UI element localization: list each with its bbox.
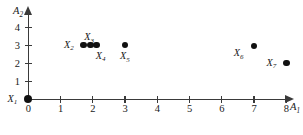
x-axis-tick — [92, 96, 93, 103]
y-axis-label: A2 — [13, 5, 23, 16]
x-axis-tick — [253, 96, 254, 103]
data-point-label-x7: X7 — [267, 57, 277, 68]
x-axis-tick-label: 3 — [117, 103, 133, 114]
x-axis-tick-label: 0 — [20, 103, 36, 114]
x-axis-tick-label: 2 — [85, 103, 101, 114]
y-axis-tick-label: 2 — [8, 58, 20, 69]
point-label-subscript: 7 — [273, 62, 277, 70]
point-label-subscript: 6 — [240, 53, 244, 61]
data-point-x4 — [93, 42, 100, 49]
y-axis-tick-label: 1 — [8, 76, 20, 87]
x-axis-tick — [60, 96, 61, 103]
data-point-x5 — [122, 42, 129, 49]
point-label-base: X — [267, 57, 273, 68]
x-axis-tick-label: 6 — [214, 103, 230, 114]
x-axis-tick-label: 1 — [53, 103, 69, 114]
y-axis-tick — [25, 63, 32, 64]
data-point-label-x3: X3 — [84, 31, 94, 42]
point-label-subscript: 1 — [14, 98, 18, 106]
point-label-base: X — [96, 50, 102, 61]
x-axis-tick — [286, 96, 287, 103]
x-axis-tick — [189, 96, 190, 103]
x-axis-tick-label: 4 — [149, 103, 165, 114]
x-axis-tick — [124, 96, 125, 103]
data-point-label-x6: X6 — [234, 47, 244, 58]
x-axis-tick — [221, 96, 222, 103]
y-axis-tick — [25, 81, 32, 82]
point-label-base: X — [8, 93, 14, 104]
y-axis-label-subscript: 2 — [19, 11, 23, 19]
scatter-plot-figure: A1 A2 012345678 1234 X1X2X3X4X5X6X7 — [0, 0, 303, 135]
x-axis-label-subscript: 1 — [296, 107, 300, 115]
y-axis-tick-label: 3 — [8, 40, 20, 51]
y-axis-tick-label: 4 — [8, 22, 20, 33]
point-label-subscript: 4 — [102, 55, 106, 63]
y-axis-arrow-icon — [24, 6, 32, 15]
y-axis-tick — [25, 27, 32, 28]
data-point-label-x5: X5 — [120, 50, 130, 61]
y-axis-tick — [25, 45, 32, 46]
data-point-label-x4: X4 — [96, 50, 106, 61]
data-point-x7 — [283, 60, 290, 67]
data-point-x6 — [251, 43, 258, 50]
data-point-label-x1: X1 — [8, 93, 18, 104]
data-point-label-x2: X2 — [64, 39, 74, 50]
x-axis-tick-label: 8 — [278, 103, 294, 114]
x-axis-tick-label: 7 — [246, 103, 262, 114]
x-axis-tick — [157, 96, 158, 103]
point-label-subscript: 5 — [126, 56, 130, 64]
point-label-subscript: 2 — [70, 44, 74, 52]
x-axis-tick-label: 5 — [182, 103, 198, 114]
